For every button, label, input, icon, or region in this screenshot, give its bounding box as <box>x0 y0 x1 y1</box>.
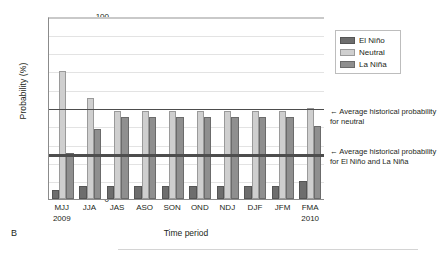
legend-swatch-elnino <box>340 37 355 44</box>
legend-label-neutral: Neutral <box>359 48 385 57</box>
x-tick-label: MJJ2009 <box>48 202 76 224</box>
x-axis-title: Time period <box>48 228 324 238</box>
legend: El NiñoNeutralLa Niña <box>335 30 401 74</box>
bar <box>286 117 293 199</box>
legend-swatch-lanina <box>340 61 355 68</box>
legend-item-lanina: La Niña <box>340 58 396 70</box>
bar <box>162 186 169 199</box>
legend-swatch-neutral <box>340 49 355 56</box>
x-tick-label: DJF <box>241 202 269 224</box>
bar <box>66 153 73 199</box>
x-tick-year: 2009 <box>48 213 76 224</box>
legend-label-lanina: La Niña <box>359 60 387 69</box>
annotation-neutral: ← Average historical probability for neu… <box>330 107 437 126</box>
reference-line-neutral <box>49 109 324 111</box>
x-tick-year <box>131 213 159 224</box>
x-tick-year <box>186 213 214 224</box>
bar <box>52 190 59 199</box>
x-tick-year: 2010 <box>296 213 324 224</box>
x-tick-year <box>241 213 269 224</box>
plot-area <box>48 17 324 200</box>
x-axis-ticks: MJJ2009JJA JAS ASO SON OND NDJ DJF JFM F… <box>48 202 324 224</box>
figure-panel-b: Probability (%) 0102030405060708090100 M… <box>0 0 437 257</box>
bar <box>134 186 141 199</box>
x-tick-label: JJA <box>76 202 104 224</box>
bar <box>121 117 128 199</box>
legend-label-elnino: El Niño <box>359 36 385 45</box>
bar <box>259 117 266 199</box>
bar <box>87 98 94 199</box>
bar <box>217 186 224 199</box>
bar <box>189 186 196 199</box>
x-tick-year <box>158 213 186 224</box>
bar <box>176 117 183 199</box>
x-tick-year <box>103 213 131 224</box>
x-tick-year <box>269 213 297 224</box>
x-tick-year <box>214 213 242 224</box>
x-tick-label: JFM <box>269 202 297 224</box>
bar <box>79 186 86 199</box>
bar <box>94 129 101 199</box>
bar <box>314 126 321 199</box>
x-tick-label: SON <box>158 202 186 224</box>
panel-label: B <box>11 228 17 238</box>
bar <box>299 181 306 199</box>
x-tick-label: JAS <box>103 202 131 224</box>
bar <box>107 186 114 199</box>
annotation-elnino-lanina: ← Average historical probability for El … <box>330 147 437 166</box>
x-tick-label: OND <box>186 202 214 224</box>
y-axis-title: Probability (%) <box>18 21 28 161</box>
x-tick-label: FMA2010 <box>296 202 324 224</box>
reference-line-elnino-lanina <box>49 154 324 157</box>
bar <box>244 186 251 199</box>
bottom-divider <box>118 249 418 250</box>
bar <box>204 117 211 199</box>
bar <box>272 186 279 199</box>
bar <box>59 71 66 199</box>
legend-item-elnino: El Niño <box>340 34 396 46</box>
legend-item-neutral: Neutral <box>340 46 396 58</box>
bar <box>149 117 156 199</box>
x-tick-label: NDJ <box>214 202 242 224</box>
x-tick-year <box>76 213 104 224</box>
bar <box>231 117 238 199</box>
x-tick-label: ASO <box>131 202 159 224</box>
